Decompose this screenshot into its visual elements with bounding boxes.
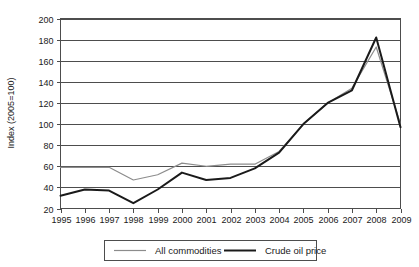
x-axis-tick-labels-group: 1995199619971998199920002001200220032004… [51, 215, 411, 225]
x-tick-label-1999: 1999 [148, 215, 168, 225]
y-tick-label-200: 200 [38, 15, 53, 25]
x-tick-label-2008: 2008 [366, 215, 386, 225]
y-tick-label-80: 80 [43, 141, 53, 151]
legend-label-all-commodities: All commodities [155, 245, 222, 256]
data-series-group [61, 38, 401, 204]
y-tick-label-40: 40 [43, 183, 53, 193]
plot-frame [61, 19, 401, 209]
x-tick-label-2005: 2005 [293, 215, 313, 225]
commodity-index-line-chart: 20406080100120140160180200 1995199619971… [0, 0, 419, 267]
y-tick-label-180: 180 [38, 36, 53, 46]
legend-label-crude-oil-price: Crude oil price [265, 245, 326, 256]
y-tick-label-120: 120 [38, 99, 53, 109]
x-tick-label-2003: 2003 [245, 215, 265, 225]
x-tick-label-1997: 1997 [99, 215, 119, 225]
chart-legend: All commodities Crude oil price [105, 241, 327, 261]
series-line-crude-oil-price [61, 38, 401, 204]
x-tick-label-2002: 2002 [221, 215, 241, 225]
y-tick-label-60: 60 [43, 162, 53, 172]
series-line-all-commodities [61, 47, 401, 180]
y-tick-label-160: 160 [38, 57, 53, 67]
y-tick-label-100: 100 [38, 120, 53, 130]
x-axis-ticks-group [62, 209, 402, 213]
gridlines-group [61, 20, 401, 188]
x-tick-label-2007: 2007 [342, 215, 362, 225]
x-tick-label-1998: 1998 [123, 215, 143, 225]
x-tick-label-2004: 2004 [269, 215, 289, 225]
x-tick-label-2001: 2001 [196, 215, 216, 225]
chart-container: 20406080100120140160180200 1995199619971… [0, 0, 419, 267]
y-tick-label-140: 140 [38, 78, 53, 88]
x-tick-label-1995: 1995 [51, 215, 71, 225]
x-tick-label-2006: 2006 [318, 215, 338, 225]
y-axis-ticks-group [57, 20, 61, 210]
x-tick-label-2009: 2009 [391, 215, 411, 225]
y-axis-title: Index (2005=100) [6, 78, 16, 149]
y-axis-tick-labels-group: 20406080100120140160180200 [38, 15, 53, 215]
x-tick-label-1996: 1996 [75, 215, 95, 225]
x-tick-label-2000: 2000 [172, 215, 192, 225]
y-tick-label-20: 20 [43, 205, 53, 215]
